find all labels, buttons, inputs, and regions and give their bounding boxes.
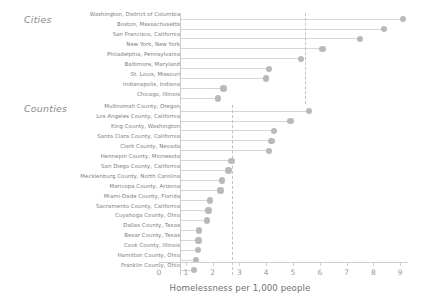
chart-row: San Diego County, California (0, 166, 422, 176)
chart-row: Hennepin County, Minnesota (0, 156, 422, 166)
lollipop-dot[interactable] (306, 108, 312, 114)
chart-row: Philadelphia, Pennsylvania (0, 54, 422, 64)
lollipop-stem (180, 38, 360, 39)
chart-row: Baltimore, Maryland (0, 64, 422, 74)
chart-row: Boston, Massachusetts (0, 24, 422, 34)
chart-row: King County, Washington (0, 126, 422, 136)
chart-row: Hamilton County, Ohio (0, 255, 422, 265)
chart-row: San Francisco, California (0, 34, 422, 44)
lollipop-dot[interactable] (266, 148, 272, 154)
lollipop-stem (180, 190, 221, 191)
chart-row: Miami-Dade County, Florida (0, 196, 422, 206)
x-axis-tick (213, 263, 214, 266)
lollipop-dot[interactable] (204, 217, 210, 223)
lollipop-stem (180, 180, 222, 181)
lollipop-dot[interactable] (207, 197, 213, 203)
x-axis-tick-label: 6 (317, 268, 322, 277)
x-axis-line (159, 262, 408, 263)
chart-row: Dallas County, Texas (0, 225, 422, 235)
lollipop-dot[interactable] (268, 138, 274, 144)
x-axis-tick (159, 263, 160, 266)
lollipop-stem (180, 121, 290, 122)
lollipop-dot[interactable] (217, 187, 223, 193)
row-label: Cuyahoga County, Ohio (115, 212, 180, 218)
row-label: Indianapolis, Indiana (123, 81, 180, 87)
x-axis-tick (320, 263, 321, 266)
x-axis-tick-label: 4 (264, 268, 269, 277)
lollipop-dot[interactable] (195, 237, 201, 243)
lollipop-stem (180, 48, 322, 49)
x-axis-tick-label: 7 (344, 268, 349, 277)
row-label: Multnomah County, Oregon (104, 103, 180, 109)
row-label: Clark County, Nevada (120, 143, 180, 149)
chart-row: Bexar County, Texas (0, 235, 422, 245)
lollipop-dot[interactable] (205, 207, 211, 213)
lollipop-dot[interactable] (271, 128, 277, 134)
row-label: San Diego County, California (101, 163, 180, 169)
lollipop-stem (180, 19, 403, 20)
lollipop-dot[interactable] (263, 75, 269, 81)
lollipop-dot[interactable] (191, 267, 197, 273)
category-axis-counties (180, 105, 181, 275)
row-label: Santa Clara County, California (97, 133, 180, 139)
x-axis-tick (239, 263, 240, 266)
chart-row: Sacramento County, California (0, 206, 422, 216)
chart-row: Indianapolis, Indiana (0, 84, 422, 94)
lollipop-chart: Cities Counties Washington, District of … (0, 0, 422, 305)
lollipop-dot[interactable] (357, 36, 363, 42)
row-label: Bexar County, Texas (124, 232, 180, 238)
row-label: Washington, District of Columbia (90, 11, 180, 17)
chart-row: St. Louis, Missouri (0, 74, 422, 84)
x-axis-tick (373, 263, 374, 266)
lollipop-stem (180, 210, 209, 211)
lollipop-stem (180, 78, 266, 79)
x-axis-tick (347, 263, 348, 266)
lollipop-dot[interactable] (400, 16, 406, 22)
lollipop-dot[interactable] (381, 26, 387, 32)
lollipop-dot[interactable] (287, 118, 293, 124)
chart-row: Maricopa County, Arizona (0, 186, 422, 196)
category-axis-cities (180, 13, 181, 104)
x-axis-title: Homelessness per 1,000 people (0, 283, 422, 293)
lollipop-dot[interactable] (196, 227, 202, 233)
row-label: Maricopa County, Arizona (110, 183, 180, 189)
lollipop-stem (180, 170, 229, 171)
lollipop-dot[interactable] (195, 247, 201, 253)
reference-line-cities (305, 13, 306, 104)
row-label: Philadelphia, Pennsylvania (107, 51, 180, 57)
chart-row: Clark County, Nevada (0, 146, 422, 156)
row-label: King County, Washington (111, 123, 180, 129)
chart-row: Cuyahoga County, Ohio (0, 215, 422, 225)
chart-row: Cook County, Illinois (0, 245, 422, 255)
lollipop-stem (180, 58, 301, 59)
lollipop-stem (180, 200, 210, 201)
lollipop-stem (180, 160, 231, 161)
row-label: St. Louis, Missouri (131, 71, 180, 77)
row-label: Hennepin County, Minnesota (101, 153, 180, 159)
lollipop-dot[interactable] (319, 46, 325, 52)
x-axis-tick-label: 0 (157, 268, 162, 277)
row-label: Miami-Dade County, Florida (104, 193, 180, 199)
lollipop-dot[interactable] (219, 177, 225, 183)
lollipop-dot[interactable] (220, 85, 226, 91)
lollipop-dot[interactable] (266, 66, 272, 72)
row-label: Baltimore, Maryland (125, 61, 180, 67)
reference-line-counties (232, 105, 233, 275)
chart-row: Mecklenburg County, North Carolina (0, 176, 422, 186)
row-label: Hamilton County, Ohio (118, 252, 180, 258)
row-label: Cook County, Illinois (124, 242, 180, 248)
x-axis-tick-label: 9 (398, 268, 403, 277)
lollipop-dot[interactable] (215, 95, 221, 101)
x-axis-tick-label: 2 (210, 268, 215, 277)
row-label: Boston, Massachusetts (117, 21, 180, 27)
row-label: New York, New York (126, 41, 180, 47)
lollipop-stem (180, 140, 272, 141)
x-axis-tick-label: 1 (183, 268, 188, 277)
chart-row: New York, New York (0, 44, 422, 54)
chart-row: Los Angeles County, California (0, 116, 422, 126)
lollipop-stem (180, 29, 384, 30)
row-label: Los Angeles County, California (96, 113, 180, 119)
x-axis-title-text: Homelessness per 1,000 people (170, 283, 311, 293)
lollipop-stem (180, 68, 269, 69)
lollipop-dot[interactable] (298, 56, 304, 62)
